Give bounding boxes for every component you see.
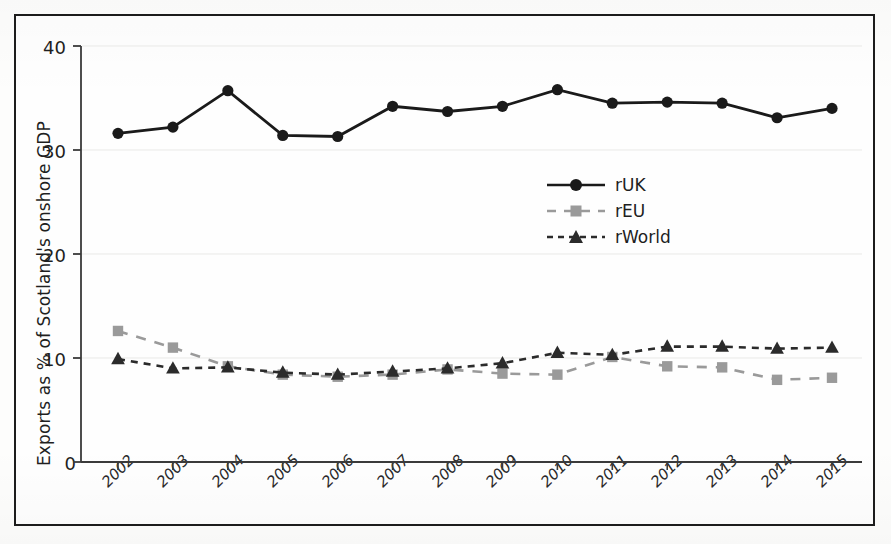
data-point-rUK-2011 xyxy=(607,98,618,109)
legend-entry-rUK: rUK xyxy=(545,174,646,196)
data-point-rEU-2010 xyxy=(552,369,562,379)
legend-marker-circle-icon xyxy=(545,175,607,195)
data-point-rUK-2008 xyxy=(442,106,453,117)
data-point-rWorld-2012 xyxy=(660,339,674,351)
data-point-rUK-2013 xyxy=(717,98,728,109)
legend-label-rWorld: rWorld xyxy=(615,227,671,247)
data-point-rUK-2002 xyxy=(112,128,123,139)
data-point-rUK-2005 xyxy=(277,130,288,141)
legend-marker-triangle-icon xyxy=(545,227,607,247)
plot-area xyxy=(0,0,891,544)
data-point-rUK-2007 xyxy=(387,101,398,112)
data-point-rEU-2013 xyxy=(717,362,727,372)
legend-entry-rEU: rEU xyxy=(545,200,645,222)
legend-label-rEU: rEU xyxy=(615,201,645,221)
data-point-rWorld-2003 xyxy=(166,361,180,373)
faint-gridlines xyxy=(82,46,862,358)
data-point-rUK-2009 xyxy=(497,101,508,112)
data-point-rUK-2004 xyxy=(222,85,233,96)
data-point-rUK-2006 xyxy=(332,131,343,142)
data-point-rEU-2009 xyxy=(497,368,507,378)
data-point-rEU-2015 xyxy=(827,373,837,383)
series-rUK xyxy=(112,84,837,142)
data-point-rWorld-2015 xyxy=(825,340,839,352)
x-axis-ticks xyxy=(118,462,832,470)
data-point-rUK-2015 xyxy=(826,103,837,114)
legend-label-rUK: rUK xyxy=(615,175,646,195)
legend-marker-square-icon xyxy=(545,201,607,221)
data-point-rUK-2012 xyxy=(662,97,673,108)
legend-entry-rWorld: rWorld xyxy=(545,226,671,248)
data-point-rEU-2012 xyxy=(662,361,672,371)
data-point-rEU-2002 xyxy=(113,326,123,336)
data-series-layer xyxy=(111,84,839,385)
series-rEU xyxy=(113,326,837,385)
series-rWorld xyxy=(111,339,839,379)
data-point-rUK-2003 xyxy=(167,122,178,133)
y-axis-ticks xyxy=(73,46,81,462)
data-point-rEU-2014 xyxy=(772,375,782,385)
data-point-rUK-2014 xyxy=(771,112,782,123)
chart-screenshot: Exports as % of Scotland's onshore GDP 0… xyxy=(0,0,891,544)
data-point-rUK-2010 xyxy=(552,84,563,95)
data-point-rEU-2003 xyxy=(168,342,178,352)
